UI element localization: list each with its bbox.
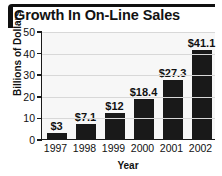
bar-slot: $12 xyxy=(100,32,129,139)
gridline xyxy=(42,75,215,76)
bar-value-label: $12 xyxy=(105,100,123,112)
y-axis-tick-label: 0 xyxy=(29,134,35,146)
y-axis-tick xyxy=(37,53,42,55)
bar xyxy=(163,80,183,139)
bar-value-label: $7.1 xyxy=(75,111,96,123)
y-axis-tick xyxy=(37,31,42,33)
bar-value-label: $27.3 xyxy=(159,67,187,79)
y-axis-tick-label: 20 xyxy=(23,91,35,103)
y-axis-tick-label: 10 xyxy=(23,112,35,124)
gridline xyxy=(42,97,215,98)
gridline xyxy=(42,32,215,33)
bar-slot: $3 xyxy=(42,32,71,139)
bar xyxy=(76,124,96,139)
x-axis-title: Year xyxy=(40,160,216,171)
y-axis-title: Billions of Dollars xyxy=(12,0,23,109)
chart-figure: Growth In On-Line Sales Billions of Doll… xyxy=(0,0,222,176)
bar-value-label: $41.1 xyxy=(188,37,216,49)
y-axis-tick xyxy=(37,139,42,141)
x-axis-tick-label: 2001 xyxy=(160,142,183,154)
gridline xyxy=(42,118,215,119)
y-axis-tick xyxy=(37,74,42,76)
y-axis-tick-label: 50 xyxy=(23,26,35,38)
x-axis-tick-label: 2002 xyxy=(189,142,212,154)
x-axis-tick-label: 1997 xyxy=(44,142,67,154)
bar-slot: $18.4 xyxy=(129,32,158,139)
bar-slot: $41.1 xyxy=(187,32,216,139)
chart-title: Growth In On-Line Sales xyxy=(14,7,180,23)
bar-slot: $7.1 xyxy=(71,32,100,139)
y-axis-tick xyxy=(37,96,42,98)
bar xyxy=(192,50,212,139)
y-axis-tick xyxy=(37,118,42,120)
bars-layer: $3$7.1$12$18.4$27.3$41.1 xyxy=(42,32,215,139)
y-axis-tick-label: 40 xyxy=(23,48,35,60)
bar-slot: $27.3 xyxy=(158,32,187,139)
bar xyxy=(47,133,67,139)
bar-value-label: $3 xyxy=(50,120,62,132)
bar xyxy=(105,113,125,139)
plot-area: $3$7.1$12$18.4$27.3$41.1 01020304050 xyxy=(41,32,215,140)
gridline xyxy=(42,54,215,55)
x-axis-tick-label: 2000 xyxy=(131,142,154,154)
x-axis-tick-label: 1998 xyxy=(73,142,96,154)
y-axis-tick-label: 30 xyxy=(23,69,35,81)
x-axis-tick-label: 1999 xyxy=(102,142,125,154)
